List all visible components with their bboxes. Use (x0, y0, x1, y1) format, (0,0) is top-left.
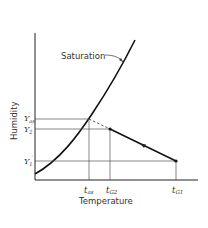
x-axis-label: Temperature (78, 196, 133, 206)
x-tick-tas: tas (84, 185, 94, 195)
y-axis-label: Humidity (9, 101, 19, 140)
svg-text:tas: tas (84, 185, 94, 195)
x-tick-tg1: tG1 (172, 185, 183, 195)
diagram-canvas: Saturation Humidity Yas′ Y2′ Y1′ tas tG2… (0, 0, 208, 228)
point-g1 (174, 159, 177, 162)
svg-text:tG2: tG2 (106, 185, 118, 195)
y-tick-y1: Y1′ (24, 154, 33, 167)
saturation-label: Saturation (61, 51, 105, 61)
point-g2 (108, 127, 111, 130)
saturation-leader-line (105, 55, 123, 62)
x-tick-tg2: tG2 (106, 185, 118, 195)
adiabatic-extension-dashed (89, 119, 110, 129)
process-arrow-icon (140, 144, 146, 149)
svg-text:Y1′: Y1′ (24, 154, 33, 167)
svg-text:Yas′: Yas′ (24, 111, 35, 124)
y-tick-yas: Yas′ (24, 111, 35, 124)
svg-text:tG1: tG1 (172, 185, 183, 195)
